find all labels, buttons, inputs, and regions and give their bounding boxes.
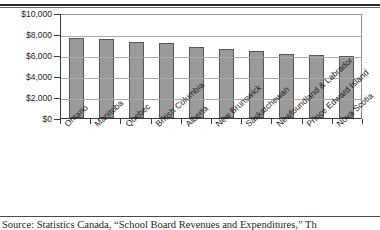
y-axis-tick-label: $6,000 [26, 52, 52, 61]
gridline [61, 57, 361, 58]
y-axis-labels: $10,000$8,000$6,000$4,000$2,000$0 [0, 14, 52, 119]
y-axis-tick-mark [54, 98, 60, 99]
y-axis-tick-label: $10,000 [21, 10, 52, 19]
x-axis-labels: OntarioManitobaQuebecBritish ColumbiaAlb… [0, 120, 380, 212]
y-axis-tick-label: $4,000 [26, 73, 52, 82]
y-axis-tick-mark [54, 77, 60, 78]
gridline [61, 78, 361, 79]
bar-series [61, 15, 361, 118]
y-axis-tick-label: $8,000 [26, 31, 52, 40]
figure-bottom-rule [0, 216, 380, 217]
y-axis-tick-label: $2,000 [26, 94, 52, 103]
y-axis-tick-mark [54, 56, 60, 57]
gridline [61, 36, 361, 37]
y-axis-tick-mark [54, 14, 60, 15]
y-axis-tick-mark [54, 35, 60, 36]
plot-area [60, 14, 362, 119]
figure-top-rule [0, 4, 380, 6]
source-note: Source: Statistics Canada, “School Board… [2, 219, 380, 230]
gridline [61, 99, 361, 100]
figure-container: $10,000$8,000$6,000$4,000$2,000$0 Ontari… [0, 0, 380, 230]
